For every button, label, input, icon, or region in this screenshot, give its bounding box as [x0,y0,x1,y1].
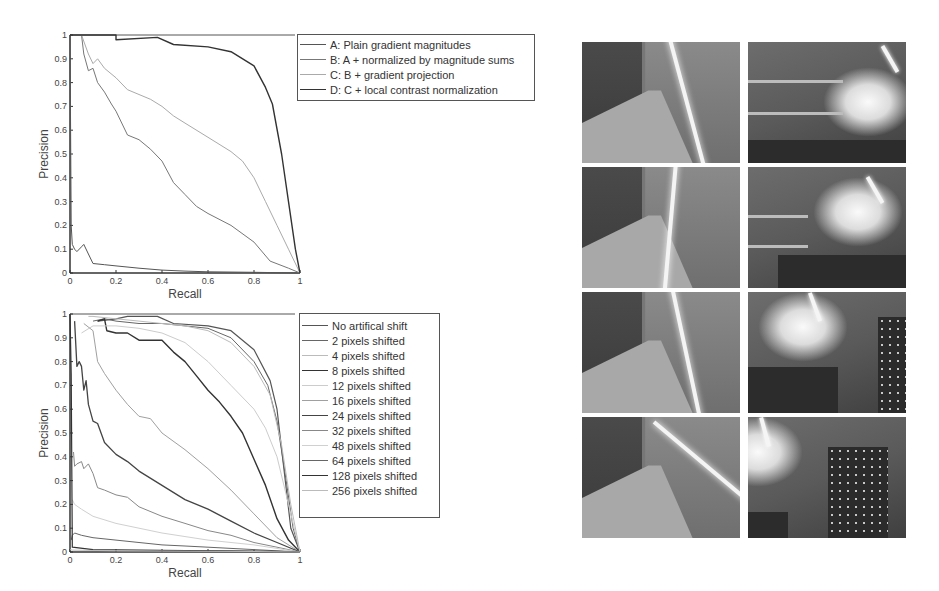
x-tick-label: 1 [297,555,302,565]
legend-swatch-icon [302,415,328,416]
legend-item: 24 pixels shifted [302,408,435,423]
series-line [70,314,300,552]
legend-swatch-icon [302,325,328,326]
legend-item: 2 pixels shifted [302,333,435,348]
legend-label: 8 pixels shifted [332,365,405,377]
legend-item: 48 pixels shifted [302,438,435,453]
legend-swatch-icon [302,460,328,461]
photo-lab-bench-view-4 [748,417,906,538]
pr-chart-pixel-shift: 00.10.20.30.40.50.60.70.80.9100.20.40.60… [0,0,560,591]
legend-label: 64 pixels shifted [332,455,411,467]
series-line [75,321,300,552]
legend-item: 16 pixels shifted [302,393,435,408]
legend-swatch-icon [302,430,328,431]
y-tick-label: 0.7 [54,380,67,390]
series-line [93,319,300,552]
legend-swatch-icon [302,475,328,476]
legend-swatch-icon [302,490,328,491]
legend-label: 128 pixels shifted [332,470,417,482]
photo-grid [582,42,906,536]
series-line [84,324,300,553]
photo-lab-bench-view-2 [748,167,906,288]
legend-swatch-icon [302,370,328,371]
y-tick-label: 0 [62,547,67,557]
y-tick-label: 0.6 [54,404,67,414]
legend-item: No artifical shift [302,318,435,333]
legend-swatch-icon [302,400,328,401]
y-tick-label: 0.8 [54,357,67,367]
y-tick-label: 0.3 [54,476,67,486]
y-tick-label: 0.2 [54,499,67,509]
legend-label: 2 pixels shifted [332,335,405,347]
legend-label: 256 pixels shifted [332,485,417,497]
legend-label: 48 pixels shifted [332,440,411,452]
legend-label: No artifical shift [332,320,407,332]
chart-legend: No artifical shift2 pixels shifted4 pixe… [299,313,440,518]
legend-item: 8 pixels shifted [302,363,435,378]
legend-swatch-icon [302,340,328,341]
legend-item: 12 pixels shifted [302,378,435,393]
legend-item: 256 pixels shifted [302,483,435,498]
photo-corridor-view-1 [582,42,740,163]
legend-item: 4 pixels shifted [302,348,435,363]
legend-label: 24 pixels shifted [332,410,411,422]
y-tick-label: 1 [62,309,67,319]
legend-label: 12 pixels shifted [332,380,411,392]
legend-label: 4 pixels shifted [332,350,405,362]
photo-lab-bench-view-3 [748,292,906,413]
x-tick-label: 0.4 [156,555,169,565]
legend-swatch-icon [302,355,328,356]
legend-label: 32 pixels shifted [332,425,411,437]
x-tick-label: 0.2 [110,555,123,565]
photo-corridor-view-3 [582,292,740,413]
y-tick-label: 0.1 [54,523,67,533]
series-line [98,316,300,552]
y-tick-label: 0.5 [54,428,67,438]
y-axis-label: Precision [37,408,51,457]
legend-item: 64 pixels shifted [302,453,435,468]
legend-item: 128 pixels shifted [302,468,435,483]
x-axis-label: Recall [168,566,201,580]
photo-lab-bench-view-1 [748,42,906,163]
pr-chart-plot-area: 00.10.20.30.40.50.60.70.80.9100.20.40.60… [0,0,560,591]
y-tick-label: 0.9 [54,333,67,343]
legend-swatch-icon [302,385,328,386]
series-line [82,326,301,552]
photo-corridor-view-4 [582,417,740,538]
x-tick-label: 0.6 [202,555,215,565]
x-tick-label: 0.8 [248,555,261,565]
y-tick-label: 0.4 [54,452,67,462]
photo-corridor-view-2 [582,167,740,288]
legend-swatch-icon [302,445,328,446]
legend-label: 16 pixels shifted [332,395,411,407]
legend-item: 32 pixels shifted [302,423,435,438]
x-tick-label: 0 [67,555,72,565]
